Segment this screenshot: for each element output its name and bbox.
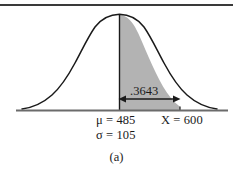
mean-label: μ = 485: [96, 113, 135, 128]
shaded-area-value-label: .3643: [130, 84, 158, 99]
boundary-value-label: X = 600: [161, 113, 203, 128]
figure-caption: (a): [0, 150, 233, 165]
normal-distribution-figure: .3643 μ = 485 σ = 105 X = 600 (a): [0, 0, 233, 178]
std-dev-label: σ = 105: [96, 128, 136, 143]
